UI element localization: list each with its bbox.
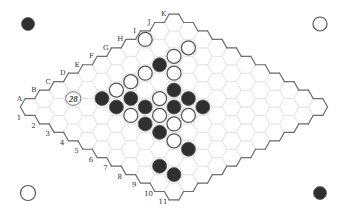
move-marker: 28	[66, 92, 81, 106]
white-stone-F5	[153, 92, 167, 106]
black-stone-E4	[124, 92, 138, 106]
column-label-D: D	[60, 69, 66, 77]
row-label-5: 5	[74, 147, 78, 155]
column-label-I: I	[133, 27, 136, 35]
corner-black-side-indicator-top-left	[22, 18, 35, 31]
row-label-3: 3	[46, 130, 50, 138]
column-label-J: J	[147, 18, 151, 26]
black-stone-F6	[167, 100, 181, 114]
column-label-A: A	[16, 95, 23, 103]
corner-black-side-indicator-bottom-right	[314, 187, 327, 200]
corner-white-side-indicator-top-right	[313, 17, 327, 31]
column-label-E: E	[75, 61, 80, 69]
row-label-9: 9	[132, 181, 136, 189]
black-stone-B9	[153, 159, 167, 173]
column-label-B: B	[31, 86, 36, 94]
black-stone-B10	[167, 168, 181, 182]
row-label-4: 4	[60, 139, 65, 147]
row-label-8: 8	[118, 173, 122, 181]
white-stone-G3	[138, 66, 152, 80]
white-stone-E6	[153, 108, 167, 122]
corner-white-side-indicator-bottom-left	[21, 186, 36, 201]
white-stone-E3	[109, 83, 123, 97]
white-stone-H4	[167, 66, 181, 80]
row-label-10: 10	[144, 190, 153, 198]
white-stone-I3	[167, 49, 181, 63]
column-label-H: H	[117, 35, 123, 43]
column-label-G: G	[103, 44, 109, 52]
black-stone-E5	[138, 100, 152, 114]
black-stone-G7	[196, 100, 210, 114]
white-stone-F7	[181, 108, 195, 122]
black-stone-D9	[181, 142, 195, 156]
hex-game-board: ABCDEFGHIJK 1234567891011 28	[0, 0, 345, 213]
white-stone-D5	[124, 108, 138, 122]
white-stone-I1	[138, 32, 152, 46]
row-label-1: 1	[17, 114, 21, 122]
black-stone-G6	[181, 92, 195, 106]
black-stone-D4	[109, 100, 123, 114]
row-label-11: 11	[159, 198, 168, 206]
white-stone-J3	[181, 41, 195, 55]
black-stone-G5	[167, 83, 181, 97]
black-stone-D6	[138, 117, 152, 131]
black-stone-D3	[95, 92, 109, 106]
white-stone-D8	[167, 134, 181, 148]
column-label-C: C	[46, 78, 51, 86]
black-stone-D7	[153, 125, 167, 139]
white-stone-E7	[167, 117, 181, 131]
move-number-label: 28	[68, 94, 79, 104]
white-stone-F3	[124, 75, 138, 89]
column-label-F: F	[89, 52, 94, 60]
row-label-7: 7	[103, 164, 107, 172]
black-stone-H3	[153, 58, 167, 72]
column-label-K: K	[161, 10, 167, 18]
row-label-6: 6	[89, 156, 94, 164]
board-canvas: ABCDEFGHIJK 1234567891011 28	[0, 0, 345, 213]
row-label-2: 2	[31, 122, 35, 130]
